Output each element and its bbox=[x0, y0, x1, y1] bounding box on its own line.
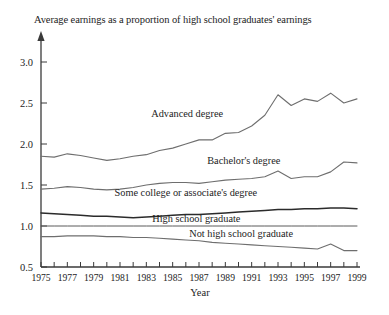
y-tick-label: 2.5 bbox=[20, 98, 33, 109]
y-axis bbox=[37, 31, 44, 267]
x-tick-label-group: 1975197719791981198319851987198919911993… bbox=[31, 272, 366, 283]
earnings-line-chart: Average earnings as a proportion of high… bbox=[0, 0, 389, 315]
series-label-group: Advanced degreeBachelor's degreeSome col… bbox=[115, 108, 294, 239]
x-tick-label: 1981 bbox=[110, 272, 129, 283]
series-label-2: Bachelor's degree bbox=[207, 155, 280, 166]
x-tick-label: 1977 bbox=[58, 272, 77, 283]
x-tick-label: 1975 bbox=[31, 272, 50, 283]
x-axis-title: Year bbox=[190, 287, 210, 298]
plot-area: 3.02.52.01.51.00.5 197519771979198119831… bbox=[0, 0, 389, 315]
x-tick-label: 1991 bbox=[242, 272, 261, 283]
x-tick-label: 1979 bbox=[84, 272, 103, 283]
x-tick-label: 1993 bbox=[268, 272, 287, 283]
x-tick-label: 1987 bbox=[189, 272, 208, 283]
y-tick-label: 2.0 bbox=[20, 139, 33, 150]
x-tick-label: 1999 bbox=[347, 272, 366, 283]
x-tick-label: 1989 bbox=[216, 272, 235, 283]
series-line-2 bbox=[41, 162, 357, 190]
x-tick-group bbox=[41, 262, 357, 267]
x-tick-label: 1985 bbox=[163, 272, 182, 283]
y-tick-label: 1.0 bbox=[20, 221, 33, 232]
series-label-5: Not high school graduate bbox=[189, 228, 293, 239]
series-label-3: Some college or associate's degree bbox=[115, 187, 258, 198]
y-tick-label: 0.5 bbox=[20, 262, 33, 273]
series-line-1 bbox=[41, 93, 357, 160]
y-tick-label: 3.0 bbox=[20, 57, 33, 68]
y-axis-arrow-icon bbox=[37, 31, 44, 41]
x-tick-label: 1995 bbox=[295, 272, 314, 283]
series-label-1: Advanced degree bbox=[151, 108, 223, 119]
series-label-4: High school graduate bbox=[152, 213, 241, 224]
y-tick-label-group: 3.02.52.01.51.00.5 bbox=[20, 57, 33, 273]
y-tick-label: 1.5 bbox=[20, 180, 33, 191]
x-tick-label: 1997 bbox=[321, 272, 340, 283]
x-tick-label: 1983 bbox=[137, 272, 156, 283]
